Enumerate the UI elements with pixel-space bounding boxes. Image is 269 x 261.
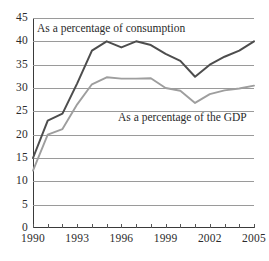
x-tick-label: 1996 — [109, 233, 133, 245]
x-tick-label: 2002 — [198, 233, 222, 245]
y-tick-label: 25 — [16, 105, 28, 117]
x-tick-label: 1999 — [154, 233, 178, 245]
y-tick-label: 5 — [22, 199, 28, 211]
y-tick-label: 40 — [16, 35, 28, 47]
y-tick-label: 10 — [16, 175, 28, 187]
y-axis-labels: 051015202530354045 — [0, 0, 28, 261]
x-tick-label: 1990 — [21, 233, 45, 245]
series-label-gdp: As a percentage of the GDP — [118, 112, 247, 124]
y-tick-label: 30 — [16, 82, 28, 94]
x-axis-labels: 199019931996199920022005 — [33, 0, 254, 261]
y-tick-label: 15 — [16, 152, 28, 164]
y-tick-label: 35 — [16, 59, 28, 71]
line-chart: 051015202530354045 199019931996199920022… — [0, 0, 269, 261]
series-label-consumption: As a percentage of consumption — [37, 23, 185, 35]
x-tick-label: 2005 — [242, 233, 266, 245]
x-tick-label: 1993 — [65, 233, 89, 245]
y-tick-label: 20 — [16, 129, 28, 141]
y-tick-label: 45 — [16, 12, 28, 24]
x-tick — [254, 224, 255, 228]
